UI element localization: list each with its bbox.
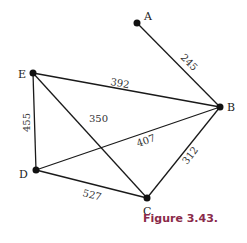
node-label-e: E: [18, 68, 26, 81]
node-e: [30, 70, 37, 77]
weight-e-d: 455: [21, 113, 32, 132]
weight-d-c: 527: [82, 187, 103, 202]
weight-c-b: 312: [180, 144, 200, 166]
edge-e-c: [33, 73, 147, 198]
node-label-d: D: [19, 168, 28, 181]
node-label-a: A: [143, 10, 153, 23]
graph-diagram: A B C D E 245 392 350 455 407 527 312: [0, 0, 247, 243]
node-d: [33, 167, 40, 174]
edge-e-d: [33, 73, 36, 170]
weight-e-c: 350: [89, 113, 108, 124]
node-c: [144, 195, 151, 202]
figure-caption: Figure 3.43.: [143, 212, 218, 225]
weight-a-b: 245: [179, 52, 200, 73]
edge-c-b: [147, 107, 220, 198]
weight-e-b: 392: [110, 76, 131, 90]
node-a: [134, 20, 141, 27]
node-label-b: B: [227, 101, 235, 114]
node-b: [217, 104, 224, 111]
